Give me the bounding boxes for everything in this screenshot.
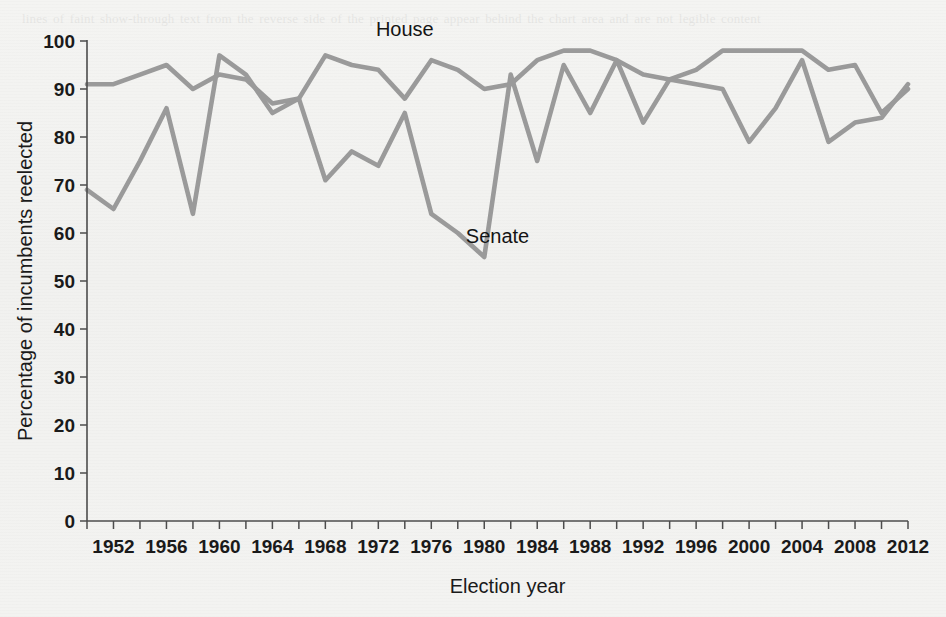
y-tick-label: 90 xyxy=(54,79,75,100)
x-tick-label: 1980 xyxy=(463,536,505,557)
y-tick-label: 50 xyxy=(54,271,75,292)
line-chart: 0102030405060708090100195219561960196419… xyxy=(0,0,946,617)
x-tick-label: 2012 xyxy=(887,536,929,557)
x-tick-label: 1988 xyxy=(569,536,611,557)
y-tick-label: 40 xyxy=(54,319,75,340)
figure-page: lines of faint show-through text from th… xyxy=(0,0,946,617)
x-tick-label: 1972 xyxy=(357,536,399,557)
x-tick-label: 1992 xyxy=(622,536,664,557)
y-tick-label: 20 xyxy=(54,415,75,436)
y-tick-label: 30 xyxy=(54,367,75,388)
y-tick-label: 60 xyxy=(54,223,75,244)
y-tick-label: 70 xyxy=(54,175,75,196)
x-tick-label: 1964 xyxy=(251,536,294,557)
series-label-house: House xyxy=(376,18,434,40)
y-tick-label: 80 xyxy=(54,127,75,148)
y-tick-label: 100 xyxy=(43,31,75,52)
y-axis-title: Percentage of incumbents reelected xyxy=(14,121,36,441)
x-tick-label: 1984 xyxy=(516,536,559,557)
x-tick-label: 1960 xyxy=(198,536,240,557)
x-axis-title: Election year xyxy=(450,575,566,597)
y-tick-label: 10 xyxy=(54,463,75,484)
y-tick-label: 0 xyxy=(64,511,75,532)
x-tick-label: 1976 xyxy=(410,536,452,557)
x-tick-label: 1996 xyxy=(675,536,717,557)
x-tick-label: 1956 xyxy=(145,536,187,557)
x-tick-label: 2004 xyxy=(781,536,824,557)
x-tick-label: 1952 xyxy=(92,536,134,557)
series-label-senate: Senate xyxy=(466,225,529,247)
x-tick-label: 1968 xyxy=(304,536,346,557)
x-tick-label: 2000 xyxy=(728,536,770,557)
x-tick-label: 2008 xyxy=(834,536,876,557)
